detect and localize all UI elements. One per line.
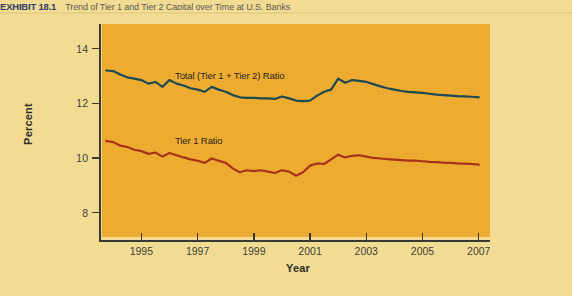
series-line-tier1-ratio <box>106 141 479 176</box>
chart-series-layer <box>0 0 572 296</box>
series-annotation-tier1-ratio: Tier 1 Ratio <box>175 135 223 146</box>
series-line-total-ratio <box>106 70 479 101</box>
exhibit-figure: EXHIBIT 18.1Trend of Tier 1 and Tier 2 C… <box>0 0 572 296</box>
series-annotation-total-ratio: Total (Tier 1 + Tier 2) Ratio <box>175 70 284 81</box>
